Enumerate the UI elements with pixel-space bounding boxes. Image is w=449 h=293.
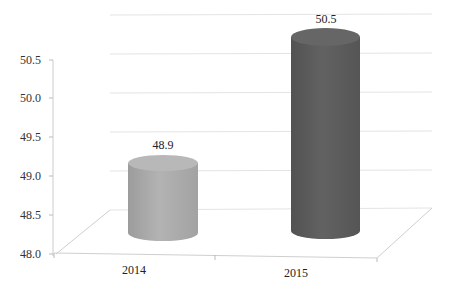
data-label: 50.5 <box>316 12 337 26</box>
bar-2014: 48.9 <box>128 138 198 241</box>
y-tick-label: 48.0 <box>20 247 41 261</box>
y-tick-label: 50.0 <box>20 91 41 105</box>
y-tick-label: 49.0 <box>20 169 41 183</box>
y-axis: 48.0 48.5 49.0 49.5 50.0 50.5 <box>20 53 53 261</box>
x-category-label: 2014 <box>122 263 146 277</box>
y-tick-label: 48.5 <box>20 208 41 222</box>
y-tick-label: 49.5 <box>20 130 41 144</box>
cylinder-bar-chart: 48.0 48.5 49.0 49.5 50.0 50.5 48.9 50.5 … <box>0 0 449 293</box>
data-label: 48.9 <box>153 138 174 152</box>
x-category-label: 2015 <box>284 266 308 280</box>
y-tick-label: 50.5 <box>20 53 41 67</box>
bar-2015: 50.5 <box>291 12 360 239</box>
chart-floor <box>54 208 432 258</box>
